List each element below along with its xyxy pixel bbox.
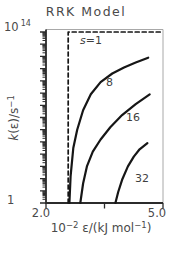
- y-top-exponent: 14: [21, 19, 31, 28]
- rrk-model-figure: RRK Model 1014 1 k(ε)/s−1 2.0 5.0 10−2 ε…: [0, 0, 172, 255]
- y-top-base: 10: [4, 20, 19, 34]
- y-title-k: k: [7, 134, 21, 141]
- curve-label-text: 16: [126, 111, 140, 124]
- y-title-mid: (ε)/s: [7, 108, 21, 134]
- x-tick-label-5.0: 5.0: [148, 206, 166, 220]
- y-title-exponent: −1: [6, 95, 16, 108]
- y-axis-bottom-tick-label: 1: [7, 193, 14, 207]
- y-axis-title: k(ε)/s−1: [7, 95, 21, 141]
- x-title-end: ): [147, 221, 152, 235]
- x-axis-title: 10−2 ε/(kJ mol−1): [51, 221, 152, 235]
- x-title-exponent-2: −1: [134, 220, 147, 230]
- curve-label-text: 32: [135, 172, 149, 185]
- curve-label-s1: s=1: [80, 35, 102, 46]
- curve-label-s8: 8: [106, 77, 113, 88]
- x-tick-label-2.0: 2.0: [32, 206, 50, 220]
- x-title-mid: ε/(kJ mol: [78, 221, 134, 235]
- curve-label-s16: 16: [126, 112, 140, 123]
- x-title-base: 10: [51, 221, 66, 235]
- curve-label-s32: 32: [135, 173, 149, 184]
- curve-label-text: =1: [86, 34, 102, 47]
- x-title-exponent: −2: [66, 220, 79, 230]
- curve-label-text: 8: [106, 76, 113, 89]
- y-axis-top-tick-label: 1014: [4, 20, 31, 34]
